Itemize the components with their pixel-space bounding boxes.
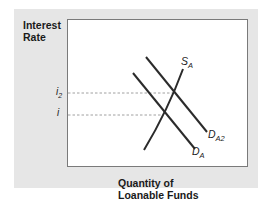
demand-curve-label: DA bbox=[192, 145, 205, 160]
demand-curve bbox=[133, 73, 195, 149]
curves-svg bbox=[0, 0, 270, 219]
supply-curve-label: SA bbox=[181, 55, 193, 70]
demand-shifted-curve-label: DA2 bbox=[208, 128, 225, 143]
demand-shifted-curve bbox=[146, 57, 207, 132]
